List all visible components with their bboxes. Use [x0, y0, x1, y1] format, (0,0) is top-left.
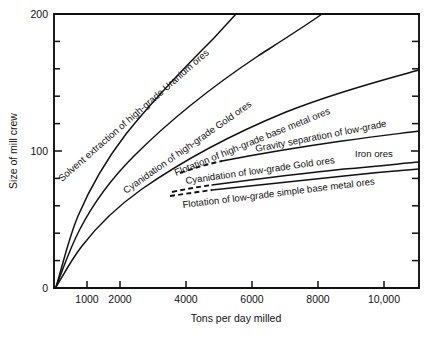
y-tick-label-0: 0: [42, 282, 48, 294]
x-tick-label-1000: 1000: [75, 293, 99, 305]
y-tick-label-100: 100: [30, 145, 48, 157]
mill-crew-vs-tonnage-chart: 200 100 0 1000 2000 4000 6000 8000 10,00…: [0, 0, 437, 338]
y-tick-label-200: 200: [30, 8, 48, 20]
x-tick-label-4000: 4000: [174, 293, 198, 305]
x-tick-label-8000: 8000: [306, 293, 330, 305]
curve-label-iron-ores: Iron ores: [355, 148, 393, 159]
x-tick-label-2000: 2000: [108, 293, 132, 305]
chart-figure: 200 100 0 1000 2000 4000 6000 8000 10,00…: [0, 0, 437, 338]
x-axis-title: Tons per day milled: [191, 312, 282, 324]
x-tick-label-10000: 10,000: [368, 293, 400, 305]
x-tick-label-6000: 6000: [240, 293, 264, 305]
y-axis-title: Size of mill crew: [7, 113, 19, 189]
